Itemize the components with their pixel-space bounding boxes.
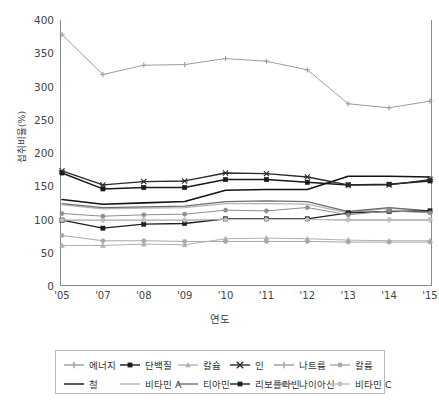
legend-marker-plus <box>272 359 296 371</box>
legend-label: 나트륨 <box>299 358 326 372</box>
x-tick-label: '09 <box>168 290 202 301</box>
legend-item-에너지[interactable]: 에너지 <box>62 358 118 372</box>
legend-marker-dot <box>328 359 352 371</box>
y-tick-label: 100 <box>24 215 54 225</box>
legend-marker-dot <box>328 378 352 390</box>
y-axis-tick-labels: 050100150200250300350400 <box>22 0 54 300</box>
legend-item-비타민 A[interactable]: 비타민 A <box>118 377 176 391</box>
legend-label: 칼륨 <box>355 358 373 372</box>
x-tick-label: '12 <box>290 290 324 301</box>
x-tick-label: '08 <box>127 290 161 301</box>
legend-marker-line <box>176 378 200 390</box>
legend-swatch <box>272 378 296 390</box>
legend-item-비타민 C[interactable]: 비타민 C <box>328 377 378 391</box>
legend-marker-diamond <box>228 378 252 390</box>
plot-area <box>60 20 432 286</box>
legend-swatch <box>62 359 86 371</box>
legend-swatch <box>176 378 200 390</box>
x-tick-label: '11 <box>249 290 283 301</box>
legend-item-나트륨[interactable]: 나트륨 <box>272 358 328 372</box>
legend-swatch <box>118 378 142 390</box>
x-tick-label: '05 <box>45 290 79 301</box>
legend-row: 에너지단백질칼슘인나트륨칼륨 <box>62 355 378 374</box>
legend-item-철[interactable]: 철 <box>62 377 118 391</box>
x-tick-label: '07 <box>86 290 120 301</box>
legend-swatch <box>118 359 142 371</box>
nutrient-intake-line-chart: 섭취비율(%) 050100150200250300350400 '05'07'… <box>0 0 439 409</box>
legend-label: 단백질 <box>145 358 172 372</box>
legend-swatch <box>228 378 252 390</box>
legend-marker-cross <box>228 359 252 371</box>
legend-swatch <box>62 378 86 390</box>
y-tick-label: 250 <box>24 115 54 125</box>
legend-swatch <box>328 378 352 390</box>
legend-label: 티아민 <box>203 377 230 391</box>
legend-row: 철비타민 A티아민리보플라빈나이아신비타민 C <box>62 374 378 393</box>
legend-marker-dot <box>272 378 296 390</box>
y-tick-label: 350 <box>24 48 54 58</box>
x-tick-label: '13 <box>331 290 365 301</box>
legend-marker-diamond <box>118 359 142 371</box>
y-tick-label: 400 <box>24 15 54 25</box>
legend-label: 인 <box>255 358 264 372</box>
legend-swatch <box>272 359 296 371</box>
legend-item-티아민[interactable]: 티아민 <box>176 377 228 391</box>
legend-marker-triangle <box>176 359 200 371</box>
x-tick-label: '15 <box>413 290 439 301</box>
legend-item-나이아신[interactable]: 나이아신 <box>272 377 328 391</box>
legend-label: 칼슘 <box>203 358 221 372</box>
legend-marker-line <box>62 378 86 390</box>
y-tick-label: 300 <box>24 82 54 92</box>
legend-swatch <box>176 359 200 371</box>
legend-marker-plus <box>62 359 86 371</box>
legend-item-칼륨[interactable]: 칼륨 <box>328 358 378 372</box>
chart-legend: 에너지단백질칼슘인나트륨칼륨 철비타민 A티아민리보플라빈나이아신비타민 C <box>55 350 385 394</box>
legend-swatch <box>328 359 352 371</box>
legend-item-인[interactable]: 인 <box>228 358 272 372</box>
legend-item-칼슘[interactable]: 칼슘 <box>176 358 228 372</box>
y-tick-label: 150 <box>24 181 54 191</box>
legend-item-리보플라빈[interactable]: 리보플라빈 <box>228 377 272 391</box>
x-axis-title: 연도 <box>0 311 439 326</box>
legend-marker-line <box>118 378 142 390</box>
legend-label: 비타민 C <box>355 377 392 391</box>
x-tick-label: '10 <box>209 290 243 301</box>
legend-label: 철 <box>89 377 98 391</box>
y-tick-label: 50 <box>24 248 54 258</box>
legend-item-단백질[interactable]: 단백질 <box>118 358 176 372</box>
legend-swatch <box>228 359 252 371</box>
y-tick-label: 200 <box>24 148 54 158</box>
legend-label: 에너지 <box>89 358 116 372</box>
x-tick-label: '14 <box>372 290 406 301</box>
